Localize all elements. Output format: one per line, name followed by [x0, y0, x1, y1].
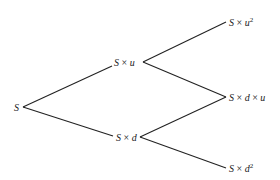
node-du-label: S × d × u	[229, 92, 265, 103]
edges	[23, 22, 226, 168]
node-down-label: S × d	[116, 132, 138, 143]
node-up-label: S × u	[114, 57, 135, 68]
node-dd-label: S × d2	[229, 162, 254, 174]
binomial-tree-diagram: S S × u S × d S × u2 S × d × u S × d2	[0, 0, 280, 180]
edge-down-du	[140, 97, 226, 137]
edge-root-down	[23, 107, 113, 136]
edge-down-dd	[140, 137, 226, 168]
edge-up-uu	[143, 22, 226, 62]
node-uu-label: S × u2	[229, 16, 254, 28]
node-root-label: S	[14, 102, 19, 113]
edge-root-up	[23, 66, 112, 107]
edge-up-du	[143, 62, 226, 97]
